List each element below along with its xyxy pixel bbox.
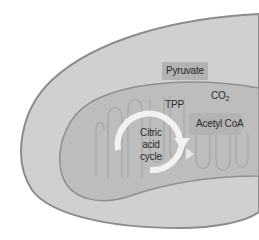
citric-acid-cycle-label: Citric acid cycle [140,127,162,163]
mitochondrion-diagram: Pyruvate TPP CO2 Acetyl CoA Citric acid … [0,0,259,240]
co2-subscript: 2 [226,95,230,102]
co2-label: CO2 [211,90,229,105]
acetyl-coa-label: Acetyl CoA [196,118,243,130]
co2-text: CO [211,90,226,101]
tpp-label: TPP [165,99,184,111]
pyruvate-label: Pyruvate [166,65,204,77]
